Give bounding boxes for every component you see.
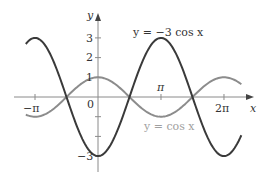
tick-label-neg-pi: −π — [23, 102, 39, 115]
cosine-chart: y x −π 0 π 2π 3 2 1 −3 y = −3 cos x y = … — [0, 0, 264, 179]
x-axis-label: x — [250, 102, 257, 115]
series-label-cos-x: y = cos x — [143, 120, 195, 133]
tick-label-zero: 0 — [87, 98, 94, 111]
y-axis-label: y — [86, 9, 94, 22]
tick-label-y2: 2 — [86, 51, 93, 64]
tick-label-2pi: 2π — [215, 102, 229, 115]
tick-label-y1: 1 — [86, 71, 93, 84]
x-axis-arrow-icon — [246, 94, 254, 100]
series-label-neg-3-cos-x: y = −3 cos x — [132, 26, 204, 39]
tick-label-yneg3: −3 — [77, 150, 93, 163]
tick-label-y3: 3 — [86, 32, 93, 45]
y-axis-arrow-icon — [95, 13, 101, 21]
tick-label-pi: π — [156, 81, 165, 94]
